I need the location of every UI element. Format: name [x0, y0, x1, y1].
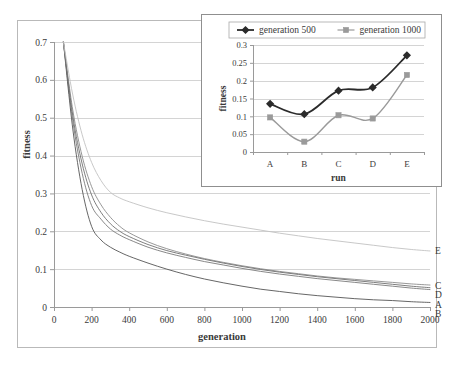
main-x-tick-label: 0 — [52, 315, 57, 325]
inset-y-tick-label: 0.05 — [232, 129, 247, 139]
inset-x-tick-label: B — [301, 159, 307, 169]
main-y-tick-label: 0 — [42, 303, 47, 313]
main-y-axis-title: fitness — [21, 130, 32, 159]
main-x-tick-label: 400 — [122, 315, 137, 325]
figure-container: 00.10.20.30.40.50.60.7020040060080010001… — [0, 0, 452, 365]
main-y-tick-label: 0.1 — [35, 265, 47, 275]
legend-label-1: generation 1000 — [360, 25, 422, 35]
inset-marker — [404, 72, 409, 77]
inset-x-axis-title: run — [331, 173, 347, 183]
main-y-tick-label: 0.2 — [35, 227, 47, 237]
main-y-tick-label: 0.6 — [35, 75, 47, 85]
main-x-tick-label: 200 — [84, 315, 99, 325]
inset-y-tick-label: 0.3 — [236, 40, 247, 50]
main-series-label-D: D — [435, 290, 442, 300]
inset-y-tick-label: 0.15 — [232, 94, 247, 104]
main-series-label-C: C — [435, 281, 441, 291]
main-y-tick-label: 0.3 — [35, 189, 47, 199]
main-x-tick-label: 1000 — [233, 315, 252, 325]
main-x-tick-label: 800 — [197, 315, 212, 325]
chart-canvas: 00.10.20.30.40.50.60.7020040060080010001… — [0, 0, 452, 365]
main-series-label-E: E — [435, 246, 441, 256]
main-series-label-A: A — [435, 300, 442, 310]
inset-marker — [302, 139, 307, 144]
inset-y-axis-title: fitness — [218, 85, 228, 111]
main-x-axis-title: generation — [198, 331, 246, 342]
main-y-tick-label: 0.7 — [35, 38, 47, 48]
inset-x-tick-label: E — [404, 159, 410, 169]
main-x-tick-label: 600 — [160, 315, 175, 325]
main-x-tick-label: 1200 — [270, 315, 289, 325]
inset-x-tick-label: D — [369, 159, 376, 169]
inset-chart: 00.050.10.150.20.250.3ABCDErunfitnessgen… — [202, 15, 442, 187]
main-x-tick-label: 1800 — [383, 315, 402, 325]
legend-marker-1 — [343, 27, 348, 32]
main-y-tick-label: 0.4 — [35, 151, 47, 161]
inset-y-tick-label: 0 — [243, 147, 247, 157]
inset-y-tick-label: 0.25 — [232, 58, 247, 68]
main-series-label-B: B — [435, 309, 441, 319]
inset-x-tick-label: C — [335, 159, 341, 169]
inset-marker — [336, 113, 341, 118]
legend-label-0: generation 500 — [259, 25, 316, 35]
inset-y-tick-label: 0.2 — [236, 76, 247, 86]
inset-x-tick-label: A — [267, 159, 274, 169]
inset-marker — [370, 116, 375, 121]
main-x-tick-label: 1600 — [345, 315, 364, 325]
inset-marker — [268, 115, 273, 120]
main-y-tick-label: 0.5 — [35, 113, 47, 123]
main-x-tick-label: 1400 — [308, 315, 327, 325]
inset-y-tick-label: 0.1 — [236, 112, 247, 122]
